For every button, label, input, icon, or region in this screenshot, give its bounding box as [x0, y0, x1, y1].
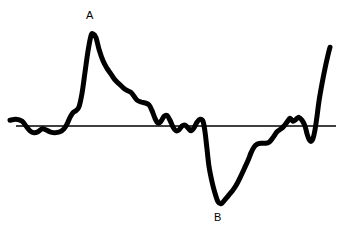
- waveform-plot: [0, 0, 343, 238]
- trough-label-b: B: [214, 212, 221, 223]
- waveform-trace: [10, 34, 330, 204]
- peak-label-a: A: [86, 10, 93, 21]
- waveform-figure: A B: [0, 0, 343, 238]
